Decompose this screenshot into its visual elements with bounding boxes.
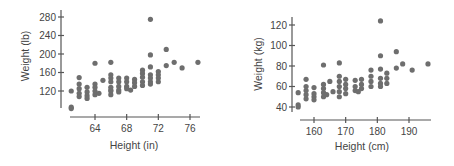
data-point (148, 81, 153, 86)
y-tick-label: 120 (270, 20, 287, 31)
y-ticks: 120160200240280 (39, 12, 64, 97)
x-tick-label: 190 (401, 126, 418, 137)
data-point (368, 74, 373, 79)
data-point (337, 74, 342, 79)
data-point (303, 96, 308, 101)
x-tick-label: 170 (337, 126, 354, 137)
data-point (148, 17, 153, 22)
data-point (77, 94, 82, 99)
data-point (311, 85, 316, 90)
chart-height-cm-vs-weight-kg: 406080100120 160170180190 Height (cm) We… (252, 17, 431, 152)
data-point (84, 85, 89, 90)
y-axis-label: Weight (kg) (252, 37, 264, 91)
data-point (378, 18, 383, 23)
data-point (140, 83, 145, 88)
data-point (343, 86, 348, 91)
data-point (359, 86, 364, 91)
data-point (296, 90, 301, 95)
data-point (77, 86, 82, 91)
data-point (172, 60, 177, 65)
data-point (116, 79, 121, 84)
data-point (100, 78, 105, 83)
y-tick-label: 40 (276, 102, 288, 113)
data-point (327, 79, 332, 84)
data-point (337, 79, 342, 84)
y-tick-label: 160 (39, 67, 56, 78)
data-point (296, 104, 301, 109)
data-point (378, 66, 383, 71)
data-point (164, 47, 169, 52)
data-points (296, 18, 431, 109)
data-point (394, 49, 399, 54)
scatter-charts: 120160200240280 64687276 Height (in) Wei… (0, 0, 454, 166)
x-tick-label: 160 (306, 126, 323, 137)
data-point (116, 89, 121, 94)
data-point (321, 62, 326, 67)
y-tick-label: 80 (276, 61, 288, 72)
data-points (69, 17, 201, 111)
data-point (378, 76, 383, 81)
data-point (69, 88, 74, 93)
data-point (84, 96, 89, 101)
data-point (96, 91, 101, 96)
data-point (337, 94, 342, 99)
x-tick-label: 180 (369, 126, 386, 137)
data-point (384, 81, 389, 86)
data-point (303, 77, 308, 82)
data-point (400, 61, 405, 66)
data-point (368, 79, 373, 84)
data-point (124, 79, 129, 84)
y-tick-label: 120 (39, 86, 56, 97)
y-tick-label: 60 (276, 81, 288, 92)
data-point (378, 53, 383, 58)
x-axis-label: Height (in) (110, 139, 158, 151)
y-tick-label: 200 (39, 49, 56, 60)
x-axis-label: Height (cm) (335, 140, 389, 152)
y-tick-label: 240 (39, 30, 56, 41)
data-point (337, 60, 342, 65)
data-point (337, 89, 342, 94)
data-point (324, 92, 329, 97)
data-point (156, 79, 161, 84)
x-tick-label: 76 (184, 123, 196, 134)
data-point (343, 77, 348, 82)
data-point (343, 91, 348, 96)
data-point (353, 78, 358, 83)
y-axis-label: Weight (lb) (19, 31, 31, 82)
data-point (359, 77, 364, 82)
data-point (195, 60, 200, 65)
data-point (108, 92, 113, 97)
x-tick-label: 68 (121, 123, 133, 134)
data-point (425, 61, 430, 66)
y-ticks: 406080100120 (270, 20, 295, 113)
x-tick-label: 72 (153, 123, 165, 134)
data-point (368, 84, 373, 89)
x-tick-label: 64 (89, 123, 101, 134)
data-point (330, 89, 335, 94)
data-point (179, 65, 184, 70)
data-point (337, 84, 342, 89)
data-point (108, 79, 113, 84)
data-point (410, 68, 415, 73)
data-point (69, 106, 74, 111)
data-point (394, 65, 399, 70)
data-point (140, 75, 145, 80)
data-point (384, 76, 389, 81)
y-tick-label: 100 (270, 40, 287, 51)
data-point (108, 60, 113, 65)
y-tick-label: 280 (39, 12, 56, 23)
data-point (368, 68, 373, 73)
data-point (132, 84, 137, 89)
data-point (311, 97, 316, 102)
data-point (384, 71, 389, 76)
data-point (128, 87, 133, 92)
data-point (92, 61, 97, 66)
data-point (77, 75, 82, 80)
chart-height-in-vs-weight-lb: 120160200240280 64687276 Height (in) Wei… (19, 10, 201, 151)
data-point (164, 63, 169, 68)
data-point (378, 84, 383, 89)
data-point (77, 81, 82, 86)
data-point (148, 64, 153, 69)
data-point (148, 52, 153, 57)
